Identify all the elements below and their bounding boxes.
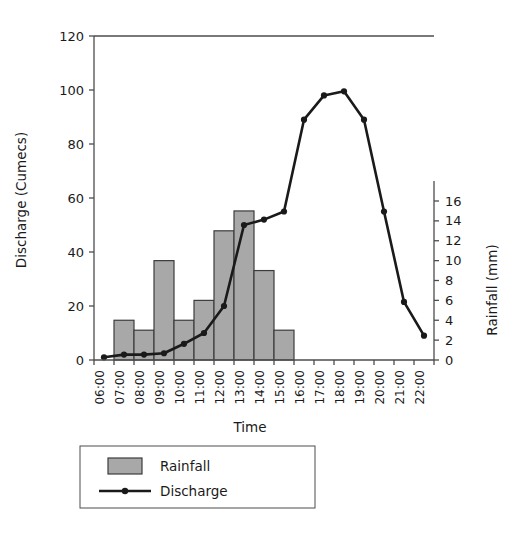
bottom-tick-label: 09:00 — [153, 370, 167, 405]
discharge-point — [361, 117, 367, 123]
legend-marker-discharge — [122, 488, 128, 494]
bottom-tick-label: 12:00 — [213, 370, 227, 405]
bottom-tick-label: 17:00 — [313, 370, 327, 405]
right-tick-label: 8 — [445, 273, 453, 288]
left-tick-label: 80 — [67, 137, 84, 152]
bottom-tick-label: 19:00 — [353, 370, 367, 405]
chart-svg: 020406080100120 0246810121416 06:0007:00… — [0, 0, 520, 546]
right-axis-title: Rainfall (mm) — [484, 244, 500, 335]
left-tick-label: 60 — [67, 191, 84, 206]
rainfall-bar — [254, 271, 274, 360]
right-tick-label: 12 — [445, 233, 462, 248]
right-tick-label: 14 — [445, 213, 462, 228]
discharge-point — [181, 341, 187, 347]
bottom-tick-label: 11:00 — [193, 370, 207, 405]
right-tick-label: 4 — [445, 313, 453, 328]
bottom-tick-label: 10:00 — [173, 370, 187, 405]
discharge-point — [161, 350, 167, 356]
legend: Rainfall Discharge — [80, 446, 315, 508]
bottom-tick-label: 16:00 — [293, 370, 307, 405]
discharge-point — [301, 117, 307, 123]
right-tick-label: 16 — [445, 194, 462, 209]
bottom-tick-label: 07:00 — [113, 370, 127, 405]
discharge-point — [241, 222, 247, 228]
left-tick-label: 120 — [59, 29, 84, 44]
bottom-tick-label: 15:00 — [273, 370, 287, 405]
bottom-tick-label: 21:00 — [393, 370, 407, 405]
right-tick-label: 0 — [445, 353, 453, 368]
bottom-axis-ticks: 06:0007:0008:0009:0010:0011:0012:0013:00… — [93, 370, 427, 405]
hydrograph-figure: 020406080100120 0246810121416 06:0007:00… — [0, 0, 520, 546]
discharge-point — [341, 88, 347, 94]
discharge-point — [121, 352, 127, 358]
left-tick-label: 40 — [67, 245, 84, 260]
left-tick-label: 100 — [59, 83, 84, 98]
discharge-point — [261, 217, 267, 223]
discharge-point — [141, 352, 147, 358]
bottom-tick-label: 18:00 — [333, 370, 347, 405]
bottom-tick-label: 06:00 — [93, 370, 107, 405]
left-axis-title: Discharge (Cumecs) — [13, 132, 29, 268]
bottom-tick-label: 13:00 — [233, 370, 247, 405]
bottom-tick-label: 14:00 — [253, 370, 267, 405]
discharge-point — [321, 92, 327, 98]
right-tick-label: 10 — [445, 253, 462, 268]
rainfall-bar — [274, 330, 294, 360]
rainfall-bar — [214, 231, 234, 360]
rainfall-bar — [234, 211, 254, 360]
bottom-tick-label: 22:00 — [413, 370, 427, 405]
left-tick-label: 0 — [76, 353, 84, 368]
discharge-point — [401, 299, 407, 305]
legend-label-rainfall: Rainfall — [160, 458, 210, 474]
rainfall-bar — [154, 261, 174, 360]
discharge-point — [201, 330, 207, 336]
discharge-point — [421, 333, 427, 339]
discharge-point — [381, 208, 387, 214]
discharge-point — [281, 208, 287, 214]
discharge-point — [221, 303, 227, 309]
bottom-tick-label: 20:00 — [373, 370, 387, 405]
right-tick-label: 6 — [445, 293, 453, 308]
left-tick-label: 20 — [67, 299, 84, 314]
legend-label-discharge: Discharge — [160, 483, 228, 499]
bottom-tick-label: 08:00 — [133, 370, 147, 405]
right-tick-label: 2 — [445, 333, 453, 348]
legend-swatch-rainfall — [108, 458, 142, 474]
bottom-axis-title: Time — [232, 419, 266, 435]
